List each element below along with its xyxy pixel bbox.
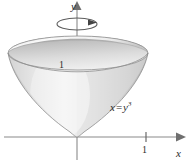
solid-of-revolution-figure: y x 1 1 x=y3 bbox=[0, 0, 189, 166]
revolution-surface bbox=[8, 36, 148, 140]
y-axis-label: y bbox=[71, 1, 76, 12]
curve-equation-label: x=y3 bbox=[110, 101, 132, 113]
figure-canvas bbox=[0, 0, 189, 166]
x-axis bbox=[4, 132, 186, 142]
equation-exponent: 3 bbox=[128, 100, 132, 108]
x-axis-tick-label-1: 1 bbox=[142, 145, 147, 155]
equation-operator: = bbox=[115, 101, 123, 113]
x-axis-label: x bbox=[176, 148, 181, 159]
y-axis-tick-label-1: 1 bbox=[59, 60, 64, 70]
